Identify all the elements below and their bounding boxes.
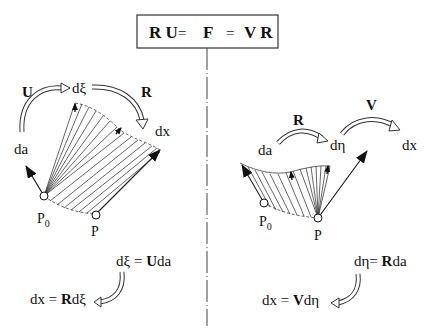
left-formula-1: dξ = Uda <box>116 253 172 269</box>
right-p0-label: P0 <box>259 214 272 232</box>
right-dx-label: dx <box>402 137 418 153</box>
svg-text:dη= Rda: dη= Rda <box>354 253 407 269</box>
right-panel: R V da dη dx P0 P dη= Rda dx = Vdη <box>240 97 418 308</box>
right-formula-2: dx = Vdη <box>262 292 319 308</box>
right-formula-1: dη= Rda <box>354 253 407 269</box>
left-da-label: da <box>14 141 29 157</box>
left-dxi-label: dξ <box>72 80 87 96</box>
title-f: F <box>203 23 213 42</box>
left-formula-2: dx = Rdξ <box>30 291 86 307</box>
right-deformed-region <box>240 163 330 218</box>
left-p0-point <box>40 192 48 200</box>
polar-decomposition-diagram: R U = F = V R <box>0 0 431 336</box>
right-v-label: V <box>366 97 377 113</box>
right-small-arrow-right <box>327 166 328 174</box>
title-vr: V R <box>244 23 273 42</box>
left-p-label: P <box>91 224 99 239</box>
right-hollow-arrow-r <box>278 131 328 143</box>
right-p-label: P <box>314 228 322 243</box>
title-box: R U = F = V R <box>137 15 278 48</box>
title-ru: R U <box>149 23 178 42</box>
title-eq1: = <box>178 25 186 41</box>
svg-text:dx = Rdξ: dx = Rdξ <box>30 291 86 307</box>
right-r-label: R <box>293 112 304 128</box>
svg-text:dξ = Uda: dξ = Uda <box>116 253 172 269</box>
right-hollow-arrow-v <box>342 120 400 134</box>
right-small-arrow-mid <box>291 172 292 180</box>
left-r-label: R <box>141 84 152 100</box>
right-dx-arrow <box>318 151 367 218</box>
left-panel: U R dξ dx da P0 P dξ = Uda dx = Rdξ <box>14 80 172 307</box>
left-da-arrow <box>26 166 44 196</box>
title-eq2: = <box>226 25 234 41</box>
right-p-point <box>314 214 322 222</box>
left-dx-label: dx <box>155 123 171 139</box>
right-deta-label: dη <box>330 137 346 153</box>
left-hollow-arrow-down <box>94 272 122 307</box>
left-p0-label: P0 <box>37 211 50 229</box>
left-p-point <box>92 211 100 219</box>
svg-text:dx = Vdη: dx = Vdη <box>262 292 319 308</box>
right-p0-point <box>260 199 268 207</box>
right-hollow-arrow-down <box>331 274 358 308</box>
right-da-label: da <box>258 142 273 158</box>
left-u-label: U <box>22 84 33 100</box>
left-hollow-arrow-r <box>92 87 148 129</box>
